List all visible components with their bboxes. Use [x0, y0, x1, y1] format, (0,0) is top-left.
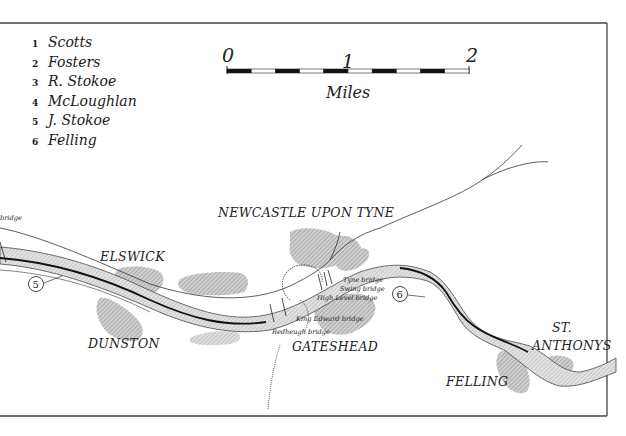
- place-label-felling: FELLING: [445, 374, 508, 389]
- legend-item: 4 McLoughlan: [32, 93, 137, 113]
- legend-name: R. Stokoe: [48, 73, 116, 89]
- legend-name: J. Stokoe: [48, 112, 110, 128]
- scale-bar: 0 1 2 Miles: [222, 44, 478, 102]
- scale-bar-segment: [396, 69, 420, 73]
- marker-6-label: 6: [397, 289, 403, 300]
- legend: 1 Scotts 2 Fosters 3 R. Stokoe 4 McLough…: [32, 34, 137, 151]
- railway-branch: [482, 145, 522, 180]
- scale-bar-segment: [324, 69, 348, 73]
- scale-tick-1: 1: [342, 50, 354, 72]
- bridge-label-left-edge: bridge: [0, 214, 22, 222]
- place-label-st: ST.: [552, 320, 572, 335]
- legend-item: 3 R. Stokoe: [32, 73, 137, 93]
- scale-bar-segment: [421, 69, 445, 73]
- urban-area-dunston-south: [190, 331, 240, 345]
- scale-bar-segment: [445, 69, 469, 73]
- scale-bar-segment: [372, 69, 396, 73]
- legend-number: 5: [32, 117, 48, 127]
- bridge-label-king-edward: King Edward bridge: [295, 315, 364, 323]
- legend-number: 1: [32, 39, 48, 49]
- urban-area-dunston: [96, 298, 142, 342]
- place-label-gateshead: GATESHEAD: [292, 339, 378, 354]
- place-label-anthonys: ANTHONYS: [531, 338, 612, 353]
- urban-area-elswick-east: [178, 272, 248, 295]
- legend-name: Felling: [48, 132, 97, 148]
- bridge-label-swing: Swing bridge: [340, 285, 385, 293]
- scale-tick-0: 0: [222, 44, 234, 66]
- marker-6: 6: [393, 287, 426, 302]
- bridge-label-tyne: Tyne bridge: [343, 276, 383, 284]
- legend-item: 2 Fosters: [32, 54, 137, 74]
- scale-bar-segment: [275, 69, 299, 73]
- legend-name: McLoughlan: [48, 93, 137, 109]
- scale-bar-segment: [251, 69, 275, 73]
- scale-tick-2: 2: [465, 44, 478, 66]
- railway-south: [268, 345, 280, 410]
- legend-name: Fosters: [48, 54, 100, 70]
- river-tyne-deep-channel-east: [400, 268, 528, 352]
- place-label-newcastle: NEWCASTLE UPON TYNE: [217, 205, 394, 220]
- bridge-label-high-level: High Level bridge: [316, 294, 377, 302]
- legend-number: 3: [32, 78, 48, 88]
- legend-item: 6 Felling: [32, 132, 137, 152]
- scale-unit-label: Miles: [325, 83, 370, 102]
- legend-number: 4: [32, 98, 48, 108]
- scale-bar-segment: [227, 69, 251, 73]
- legend-number: 6: [32, 137, 48, 147]
- legend-item: 1 Scotts: [32, 34, 137, 54]
- legend-item: 5 J. Stokoe: [32, 112, 137, 132]
- scale-bar-segment: [348, 69, 372, 73]
- bridge-label-redheugh: Redheugh bridge: [271, 328, 330, 336]
- place-label-elswick: ELSWICK: [99, 249, 165, 264]
- marker-5: 5: [29, 276, 63, 292]
- legend-number: 2: [32, 59, 48, 69]
- legend-name: Scotts: [48, 34, 92, 50]
- swing-bridge: [324, 272, 327, 286]
- scale-bar-segment: [300, 69, 324, 73]
- tyne-bridge: [328, 270, 332, 284]
- place-label-dunston: DUNSTON: [87, 336, 160, 351]
- marker-5-label: 5: [33, 279, 39, 290]
